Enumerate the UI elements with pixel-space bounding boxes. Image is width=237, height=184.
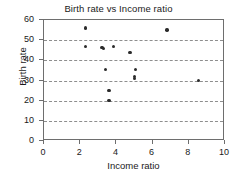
- y-axis-tick-label: 40: [8, 55, 34, 64]
- x-axis-tick-mark: [188, 140, 189, 144]
- x-axis-tick-mark: [79, 140, 80, 144]
- gridline: [44, 60, 223, 61]
- chart-title: Birth rate vs Income ratio: [0, 3, 237, 14]
- data-point: [112, 45, 115, 48]
- x-axis-title: Income ratio: [43, 160, 224, 171]
- x-axis-tick-mark: [115, 140, 116, 144]
- data-point: [107, 99, 110, 102]
- y-axis-tick-label: 0: [8, 136, 34, 145]
- gridline: [44, 101, 223, 102]
- data-point: [134, 68, 137, 71]
- data-point: [102, 47, 105, 50]
- x-axis-tick-label: 4: [105, 148, 125, 157]
- data-point: [84, 26, 87, 29]
- y-axis-tick-label: 20: [8, 95, 34, 104]
- y-axis-tick-label: 60: [8, 15, 34, 24]
- x-axis-tick-label: 10: [214, 148, 234, 157]
- x-axis-tick-label: 2: [69, 148, 89, 157]
- x-axis-tick-mark: [43, 140, 44, 144]
- x-axis-tick-label: 8: [178, 148, 198, 157]
- gridline: [44, 121, 223, 122]
- x-axis-tick-mark: [152, 140, 153, 144]
- y-axis-tick-label: 30: [8, 75, 34, 84]
- data-point: [104, 68, 107, 71]
- x-axis-tick-mark: [224, 140, 225, 144]
- scatter-chart: Birth rate vs Income ratio Birth rate In…: [0, 0, 237, 184]
- data-point: [84, 45, 87, 48]
- plot-area: [43, 19, 224, 140]
- gridline: [44, 40, 223, 41]
- y-axis-tick-label: 10: [8, 115, 34, 124]
- data-point: [107, 89, 110, 92]
- data-point: [197, 79, 200, 82]
- data-point: [165, 28, 168, 31]
- x-axis-tick-label: 0: [33, 148, 53, 157]
- x-axis-tick-label: 6: [142, 148, 162, 157]
- data-point: [128, 51, 131, 54]
- y-axis-tick-label: 50: [8, 35, 34, 44]
